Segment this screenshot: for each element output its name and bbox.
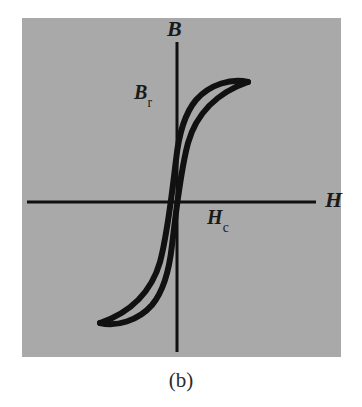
coercivity-subscript: c xyxy=(223,220,229,235)
h-axis-label: H xyxy=(325,189,342,211)
coercivity-label: Hc xyxy=(207,207,229,232)
hysteresis-figure: B H Br Hc (b) xyxy=(0,0,362,407)
remanence-label: Br xyxy=(134,82,152,107)
remanence-subscript: r xyxy=(148,95,153,110)
figure-caption: (b) xyxy=(0,368,362,393)
coercivity-base: H xyxy=(207,206,223,228)
b-axis-label: B xyxy=(167,18,182,40)
remanence-base: B xyxy=(134,81,147,103)
plot-panel-background xyxy=(22,18,341,357)
